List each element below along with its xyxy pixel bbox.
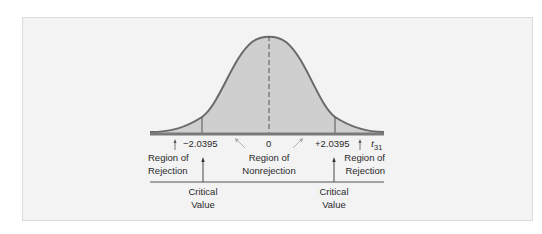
nonrejection-label: Region of Nonrejection <box>238 151 300 177</box>
curve-fill <box>150 37 384 133</box>
right-critical-value-label: Critical Value <box>311 185 357 211</box>
tick-left-critical: −2.0395 <box>183 138 218 150</box>
tick-right-critical: +2.0395 <box>315 138 350 150</box>
left-critical-value-arrow-icon <box>201 157 204 182</box>
left-rejection-arrow-icon <box>174 139 177 150</box>
left-rejection-label: Region of Rejection <box>148 151 189 177</box>
t-distribution-figure <box>0 0 542 234</box>
nonrejection-arrow-left-icon <box>235 138 245 148</box>
right-critical-value-arrow-icon <box>332 157 335 182</box>
tick-zero: 0 <box>266 138 271 150</box>
right-rejection-arrow-icon <box>359 139 362 150</box>
nonrejection-arrow-right-icon <box>293 138 303 148</box>
right-rejection-label: Region of Rejection <box>337 151 385 177</box>
left-critical-value-label: Critical Value <box>180 185 226 211</box>
